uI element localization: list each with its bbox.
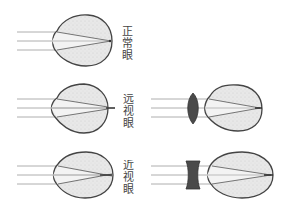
concave-lens	[186, 161, 200, 189]
label-char: 眼	[121, 50, 133, 62]
label-char: 眼	[122, 184, 134, 196]
myopia-eye-group	[17, 152, 113, 198]
normal-eye-group	[17, 15, 112, 66]
hyperopia-corrected-group	[151, 85, 262, 131]
focal-point	[109, 40, 111, 42]
label-char: 眼	[122, 118, 134, 130]
hyperopia-eye-group	[17, 84, 115, 133]
eye-diagram: 正 常 眼 远 视 眼	[0, 0, 286, 214]
convex-lens	[188, 93, 199, 124]
myopia-corrected-group	[151, 152, 273, 198]
